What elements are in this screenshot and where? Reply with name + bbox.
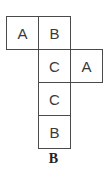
cell-label: B: [49, 124, 59, 141]
net-cell-r0-c1: B: [38, 16, 71, 50]
cell-label: C: [49, 91, 60, 108]
cell-label: B: [49, 25, 59, 42]
figure-caption: B: [0, 151, 107, 167]
net-cell-r1-c1: C: [38, 49, 71, 83]
net-cell-r3-c1: B: [38, 115, 71, 149]
net-cell-r0-c0: A: [6, 16, 39, 50]
net-cell-r2-c1: C: [38, 82, 71, 116]
cell-label: A: [17, 25, 27, 42]
cell-label: A: [81, 58, 91, 75]
net-cell-r1-c2: A: [70, 49, 103, 83]
cell-label: C: [49, 58, 60, 75]
